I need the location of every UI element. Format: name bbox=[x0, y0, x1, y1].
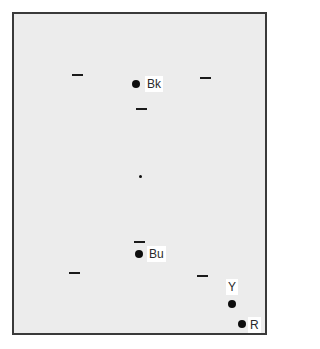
point-y-dot bbox=[228, 300, 236, 308]
point-bk-label: Bk bbox=[145, 76, 163, 92]
point-bu-label: Bu bbox=[147, 246, 166, 262]
tick-mark bbox=[72, 74, 83, 76]
point-r-label: R bbox=[248, 317, 261, 333]
point-y-label: Y bbox=[226, 279, 238, 295]
tick-mark bbox=[69, 272, 80, 274]
tick-mark bbox=[136, 108, 147, 110]
point-bk-dot bbox=[132, 80, 140, 88]
tick-mark bbox=[134, 241, 145, 243]
point-r-dot bbox=[238, 320, 246, 328]
center-dot bbox=[139, 175, 142, 178]
tick-mark bbox=[200, 77, 211, 79]
tick-mark bbox=[197, 275, 208, 277]
point-bu-dot bbox=[135, 250, 143, 258]
